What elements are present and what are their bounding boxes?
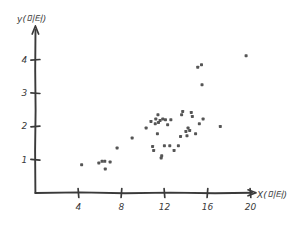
scatter-point [219,125,222,128]
x-tick-mark [121,189,122,198]
scatter-point [80,163,83,166]
scatter-point [202,118,205,121]
scatter-point [168,144,171,147]
y-tick-mark [31,93,40,94]
scatter-point [188,129,191,132]
y-tick-label: 1 [22,155,28,165]
y-tick-mark [31,159,40,160]
x-tick-mark [164,189,165,198]
scatter-point [154,122,157,125]
scatter-point [156,132,159,135]
scatter-point [163,144,166,147]
x-tick-label: 12 [159,202,170,212]
scatter-point [101,160,104,163]
scatter-point [201,83,204,86]
scatter-point [156,113,159,116]
scatter-point [191,115,194,118]
scatter-point [104,168,107,171]
y-axis-line [35,30,36,193]
scatter-point [151,145,154,148]
y-tick-label: 3 [22,88,28,98]
scatter-point [179,135,182,138]
scatter-point [181,110,184,113]
y-tick-mark [31,60,40,61]
scatter-point [245,54,248,57]
scatter-point [173,149,176,152]
scatter-point [190,111,193,114]
scatter-point [160,154,163,157]
scatter-point [159,119,162,122]
scatter-point [103,160,106,163]
y-tick-mark [31,126,40,127]
x-tick-label: 16 [202,202,213,212]
y-axis-label: y(미터) [17,12,46,25]
scatter-point [180,113,183,116]
scatter-point [97,162,100,165]
x-tick-mark [207,189,208,198]
scatter-point [200,63,203,66]
scatter-point [198,122,201,125]
scatter-point [184,130,187,133]
x-tick-label: 8 [119,202,125,212]
scatter-point [161,118,164,121]
x-axis-label: X(미터) [257,188,287,201]
scatter-point [196,66,199,69]
scatter-point [149,120,152,123]
scatter-point [194,132,197,135]
scatter-point [164,118,167,121]
scatter-plot-figure: y(미터) X(미터) 1234 48121620 [0,0,300,230]
plot-canvas [0,0,300,230]
x-tick-label: 4 [76,202,82,212]
scatter-point [185,134,188,137]
axes [32,26,256,196]
scatter-point [169,118,172,121]
x-tick-mark [250,189,251,198]
scatter-point [109,161,112,164]
y-tick-label: 2 [22,121,28,131]
scatter-point [166,123,169,126]
y-tick-label: 4 [22,55,28,65]
x-tick-label: 20 [245,202,256,212]
scatter-point [154,118,157,121]
x-tick-mark [78,189,79,198]
scatter-point [152,149,155,152]
scatter-point [116,147,119,150]
scatter-point [177,144,180,147]
scatter-point [145,127,148,130]
scatter-point [131,137,134,140]
data-points [80,54,247,170]
x-axis-line [35,192,252,193]
